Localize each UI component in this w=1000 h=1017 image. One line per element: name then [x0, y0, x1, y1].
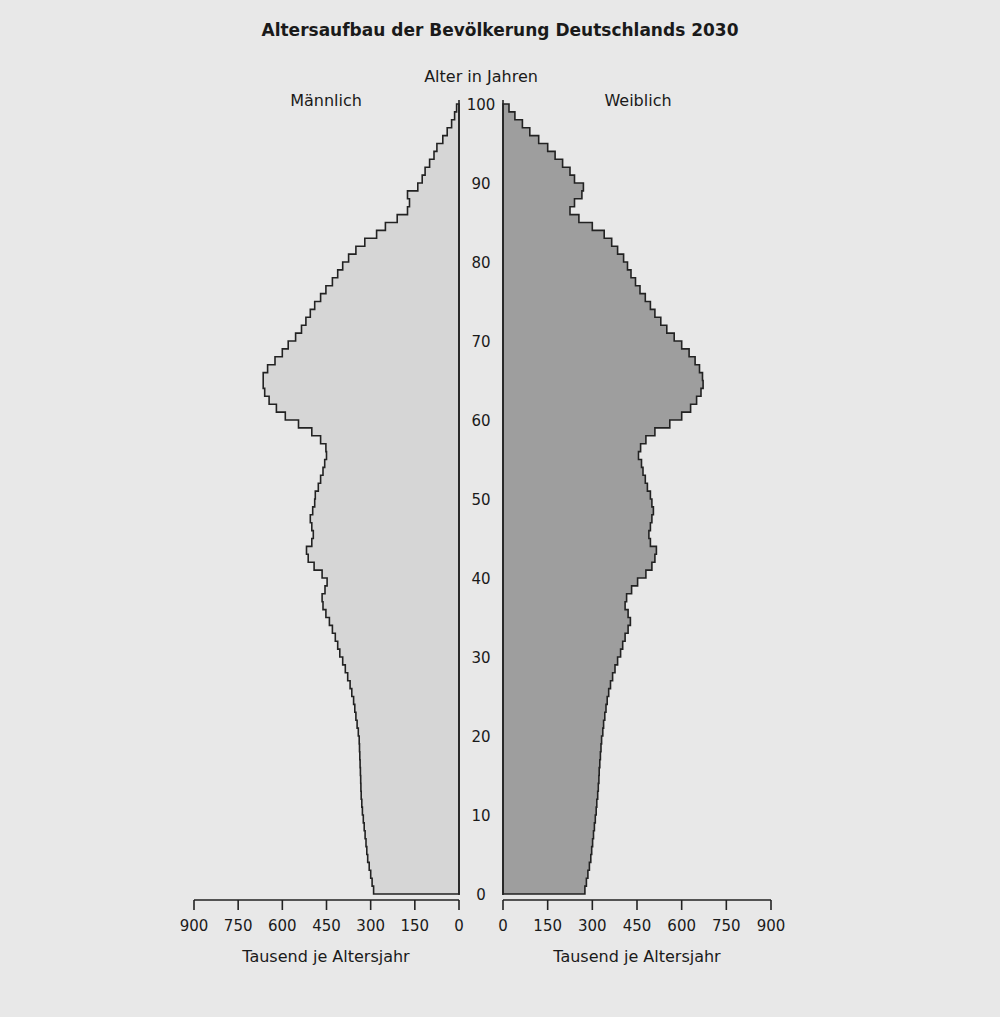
age-tick-label: 60	[471, 412, 490, 430]
x-tick-label: 150	[401, 917, 430, 935]
x-tick-label: 900	[757, 917, 786, 935]
female-population-area	[503, 104, 703, 894]
male-x-axis-label: Tausend je Altersjahr	[241, 947, 410, 966]
x-tick-label: 150	[533, 917, 562, 935]
x-tick-label: 600	[268, 917, 297, 935]
age-tick-label: 0	[476, 886, 486, 904]
x-tick-label: 0	[498, 917, 508, 935]
female-x-ticks: 0150300450600750900	[498, 900, 785, 935]
age-tick-label: 80	[471, 254, 490, 272]
age-tick-label: 100	[467, 96, 496, 114]
age-tick-label: 70	[471, 333, 490, 351]
x-tick-label: 450	[623, 917, 652, 935]
age-axis-ticks: 0102030405060708090100	[467, 96, 496, 904]
x-tick-label: 300	[356, 917, 385, 935]
population-pyramid-chart: Altersaufbau der Bevölkerung Deutschland…	[0, 0, 1000, 1017]
x-tick-label: 600	[667, 917, 696, 935]
x-tick-label: 450	[312, 917, 341, 935]
age-tick-label: 20	[471, 728, 490, 746]
chart-title: Altersaufbau der Bevölkerung Deutschland…	[262, 20, 739, 40]
age-tick-label: 40	[471, 570, 490, 588]
x-tick-label: 0	[454, 917, 464, 935]
age-tick-label: 10	[471, 807, 490, 825]
x-tick-label: 300	[578, 917, 607, 935]
male-population-area	[263, 104, 459, 894]
male-x-ticks: 0150300450600750900	[180, 900, 464, 935]
age-tick-label: 30	[471, 649, 490, 667]
x-tick-label: 750	[712, 917, 741, 935]
legend-female: Weiblich	[604, 91, 671, 110]
x-tick-label: 900	[180, 917, 209, 935]
female-x-axis-label: Tausend je Altersjahr	[552, 947, 721, 966]
age-tick-label: 90	[471, 175, 490, 193]
legend-male: Männlich	[290, 91, 362, 110]
y-axis-label: Alter in Jahren	[424, 67, 538, 86]
x-tick-label: 750	[224, 917, 253, 935]
age-tick-label: 50	[471, 491, 490, 509]
